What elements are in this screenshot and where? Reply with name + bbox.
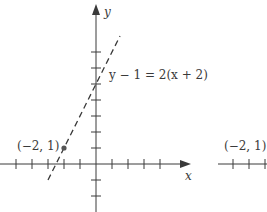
- point-marker: [61, 145, 66, 150]
- point-label: (−2, 1): [17, 139, 59, 153]
- coordinate-plane: y x y − 1 = 2(x + 2) (−2, 1) (−2, 1): [0, 0, 267, 212]
- partial-x-axis: [218, 159, 267, 169]
- y-axis-label: y: [103, 5, 111, 19]
- x-axis-label: x: [185, 169, 192, 183]
- dashed-line-graph: [48, 36, 120, 180]
- x-axis-arrow-icon: [180, 160, 191, 168]
- equation-label: y − 1 = 2(x + 2): [108, 68, 208, 82]
- partial-point-label: (−2, 1): [224, 139, 266, 153]
- y-axis-arrow-icon: [92, 4, 100, 15]
